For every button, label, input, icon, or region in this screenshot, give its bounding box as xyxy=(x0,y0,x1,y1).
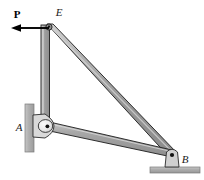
label-joint-b: B xyxy=(182,153,189,165)
support-ground-at-b xyxy=(150,167,200,173)
load-arrow-head xyxy=(11,24,21,32)
statics-figure-container: P E A B xyxy=(0,0,204,180)
joint-b xyxy=(165,149,179,167)
member-ea-body xyxy=(41,25,50,129)
label-load-p: P xyxy=(14,8,21,20)
joint-a-pin-dot xyxy=(46,124,50,128)
joint-a xyxy=(33,114,54,138)
joint-b-bracket xyxy=(165,149,179,167)
statics-diagram-canvas: P E A B xyxy=(0,0,204,180)
joint-e xyxy=(46,24,52,30)
member-e-to-a xyxy=(41,25,50,129)
ground-block xyxy=(150,167,200,173)
label-joint-a: A xyxy=(15,121,23,133)
label-joint-e: E xyxy=(55,6,63,18)
joint-a-hub xyxy=(38,120,52,133)
joint-b-pin-dot xyxy=(170,153,174,157)
